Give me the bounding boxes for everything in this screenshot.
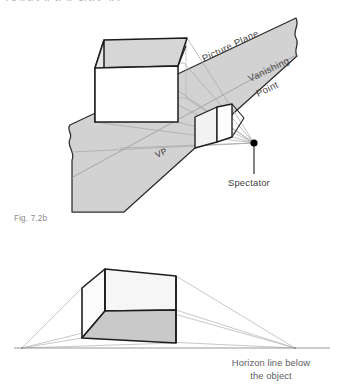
lower-diagram: Horizon line below the object — [0, 240, 341, 385]
label-horizon-note-line1: Horizon line below — [232, 357, 311, 368]
figure-caption: Fig. 7.2b — [14, 214, 48, 223]
label-horizon-note-line2: the object — [250, 370, 292, 381]
right-vanishing-point — [294, 347, 296, 349]
left-vanishing-point — [21, 347, 23, 349]
figure-caption-layer: Fig. 7.2b — [0, 205, 120, 229]
spectator-dot — [250, 139, 257, 146]
figure-container: pgqpjpyqp jpqp gpjpy qpp — [0, 0, 341, 385]
object-box-lower — [82, 269, 176, 343]
label-spectator: Spectator — [228, 177, 270, 188]
object-box-top-face — [95, 38, 187, 68]
object-box-upper — [95, 38, 187, 122]
box-top-face — [105, 269, 176, 311]
projected-box-right-face — [217, 104, 232, 142]
upper-diagram: Picture Plane Vanishing Point VP Spectat… — [0, 0, 341, 215]
object-box-front-face — [95, 66, 178, 122]
